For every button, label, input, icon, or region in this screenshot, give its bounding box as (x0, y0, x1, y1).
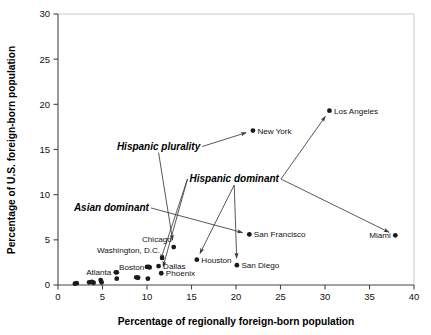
data-point (160, 256, 165, 261)
data-point (234, 263, 239, 268)
data-point-label: Los Angeles (334, 107, 378, 116)
data-point-label: Atlanta (86, 268, 112, 277)
data-point-label: Phoenix (166, 269, 195, 278)
y-axis-title: Percentage of U.S. foreign-born populati… (6, 46, 17, 254)
data-point-label: Chicago (142, 235, 172, 244)
annotation-label: Hispanic plurality (117, 141, 201, 152)
x-tick-label: 0 (55, 291, 60, 302)
data-point (74, 281, 79, 286)
data-point (114, 276, 119, 281)
data-point (156, 264, 161, 269)
y-tick-label: 0 (45, 279, 50, 290)
annotation-label: Asian dominant (73, 202, 150, 213)
annotation-label: Hispanic dominant (189, 173, 279, 184)
data-point (194, 257, 199, 262)
chart-canvas: 0510152025303540 051015202530 Los Angele… (0, 0, 431, 335)
scatter-plot-figure: 0510152025303540 051015202530 Los Angele… (0, 0, 431, 335)
y-tick-label: 20 (39, 99, 50, 110)
x-tick-label: 30 (320, 291, 331, 302)
x-axis-title: Percentage of regionally foreign-born po… (118, 316, 355, 327)
y-tick-label: 30 (39, 8, 50, 19)
data-point (171, 245, 176, 250)
data-point (159, 271, 164, 276)
x-tick-label: 40 (409, 291, 420, 302)
data-point (91, 280, 96, 285)
x-tick-label: 5 (100, 291, 105, 302)
y-tick-label: 5 (45, 234, 50, 245)
x-tick-label: 35 (364, 291, 375, 302)
y-tick-label: 15 (39, 144, 50, 155)
data-point (247, 232, 252, 237)
data-point (393, 233, 398, 238)
x-tick-label: 10 (142, 291, 153, 302)
data-point (145, 276, 150, 281)
data-point-label: Boston (119, 263, 144, 272)
x-tick-label: 15 (186, 291, 197, 302)
data-point (136, 275, 141, 280)
data-point-label: New York (257, 127, 292, 136)
data-point-label: Washington, D.C. (97, 246, 160, 255)
data-point (327, 108, 332, 113)
data-point (147, 265, 152, 270)
data-point-label: San Diego (241, 261, 279, 270)
x-tick-label: 25 (275, 291, 286, 302)
data-point-label: Miami (369, 231, 391, 240)
y-tick-label: 10 (39, 189, 50, 200)
data-point-label: San Francisco (254, 230, 306, 239)
x-tick-label: 20 (231, 291, 242, 302)
data-point-label: Houston (201, 256, 231, 265)
data-point (99, 280, 104, 285)
y-tick-label: 25 (39, 54, 50, 65)
data-point (251, 128, 256, 133)
